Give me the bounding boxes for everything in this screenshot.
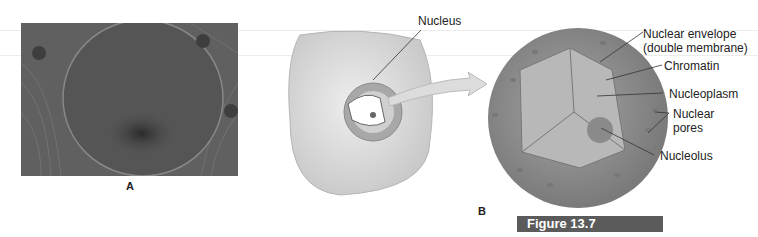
label-nuclear-pores: Nuclear pores: [673, 107, 714, 135]
label-nucleoplasm: Nucleoplasm: [669, 87, 738, 101]
label-nuclear-envelope-line1: Nuclear envelope: [643, 27, 748, 41]
label-nuclear-pores-line2: pores: [673, 121, 714, 135]
figure-caption: Figure 13.7: [517, 216, 663, 232]
label-chromatin: Chromatin: [664, 59, 719, 73]
label-nucleolus: Nucleolus: [660, 149, 713, 163]
label-nuclear-envelope: Nuclear envelope (double membrane): [643, 27, 748, 55]
label-nucleus: Nucleus: [418, 14, 461, 28]
panel-label-b: B: [478, 205, 486, 217]
label-nuclear-pores-line1: Nuclear: [673, 107, 714, 121]
label-nuclear-envelope-line2: (double membrane): [643, 41, 748, 55]
